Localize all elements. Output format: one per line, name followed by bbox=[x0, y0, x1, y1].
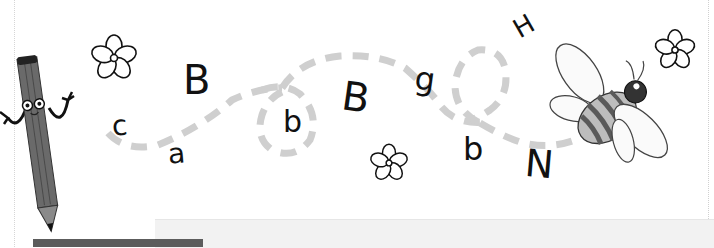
title-bar bbox=[33, 239, 203, 247]
answer-panel bbox=[155, 219, 714, 248]
